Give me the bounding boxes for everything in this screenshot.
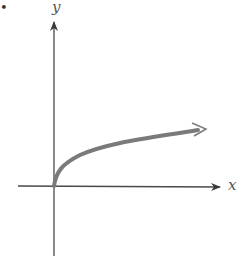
x-axis-label: x xyxy=(228,176,236,194)
curve xyxy=(54,130,198,186)
bullet-mark: • xyxy=(0,0,8,15)
figure: • y x xyxy=(0,0,238,256)
y-axis-label: y xyxy=(52,0,60,16)
x-axis xyxy=(18,186,220,187)
axes-graphic xyxy=(0,0,238,256)
